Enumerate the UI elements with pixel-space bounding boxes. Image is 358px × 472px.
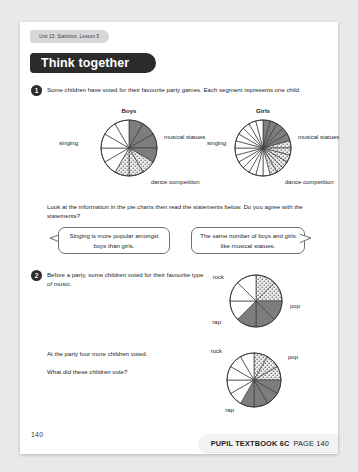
- think-together-title: Think together: [30, 56, 129, 70]
- footer-book-pill: PUPIL TEXTBOOK 6C PAGE 140: [199, 434, 338, 452]
- music2-pie-svg: [224, 350, 284, 410]
- girls-label-musical-statues: musical statues: [298, 134, 338, 142]
- party-line-2: What did these children vote?: [47, 367, 217, 376]
- boys-pie-svg: [98, 117, 160, 179]
- textbook-page: Unit 15: Statistics, Lesson 5 Think toge…: [20, 22, 338, 454]
- speech-bubble-2-text: The same number of boys and girls like m…: [192, 231, 304, 249]
- boys-label-singing: singing: [38, 140, 78, 148]
- speech-bubble-right-group: The same number of boys and girls like m…: [191, 227, 305, 254]
- page-folio-number: 140: [31, 431, 43, 438]
- girls-label-dance-competition: dance competition: [285, 179, 337, 187]
- speech-bubble-1-text: Singing is more popular amongst boys tha…: [59, 231, 169, 249]
- question-2-text: Before a party, some children voted for …: [47, 270, 207, 288]
- girls-label-singing: singing: [178, 140, 226, 148]
- chart-girls-party-games: Girls: [232, 117, 294, 179]
- question-1-text: Some children have voted for their favou…: [47, 85, 315, 94]
- girls-pie-svg: [232, 117, 294, 179]
- music1-label-pop: pop: [290, 303, 316, 311]
- speech-bubble-left-group: Singing is more popular amongst boys tha…: [58, 227, 170, 254]
- music2-label-rock: rock: [192, 348, 222, 356]
- chart-music-before-party: [227, 272, 285, 330]
- chart-music-at-party: [224, 350, 284, 410]
- boys-label-dance-competition: dance competition: [151, 179, 203, 187]
- music2-label-rap: rap: [206, 407, 234, 415]
- question-2-number: 2: [31, 270, 42, 281]
- think-together-banner: Think together: [30, 53, 156, 73]
- footer-book-title: PUPIL TEXTBOOK 6C: [211, 439, 290, 448]
- speech-bubble-2: The same number of boys and girls like m…: [191, 227, 305, 254]
- chart-boys-party-games: Boys: [98, 117, 160, 179]
- music2-label-pop: pop: [288, 354, 314, 362]
- chart-girls-title: Girls: [232, 107, 294, 114]
- speech-tail-right-icon: [298, 233, 312, 244]
- music1-label-rock: rock: [196, 274, 224, 282]
- music1-pie-svg: [227, 272, 285, 330]
- pie-chart-prompt: Look at the information in the pie chart…: [47, 202, 319, 221]
- unit-lesson-label: Unit 15: Statistics, Lesson 5: [39, 34, 99, 39]
- chart-boys-title: Boys: [98, 107, 160, 114]
- question-1-number: 1: [31, 85, 42, 96]
- unit-lesson-tab: Unit 15: Statistics, Lesson 5: [30, 30, 109, 43]
- footer-page-number: PAGE 140: [293, 439, 329, 448]
- music1-label-rap: rap: [193, 319, 221, 327]
- speech-bubble-1: Singing is more popular amongst boys tha…: [58, 227, 170, 254]
